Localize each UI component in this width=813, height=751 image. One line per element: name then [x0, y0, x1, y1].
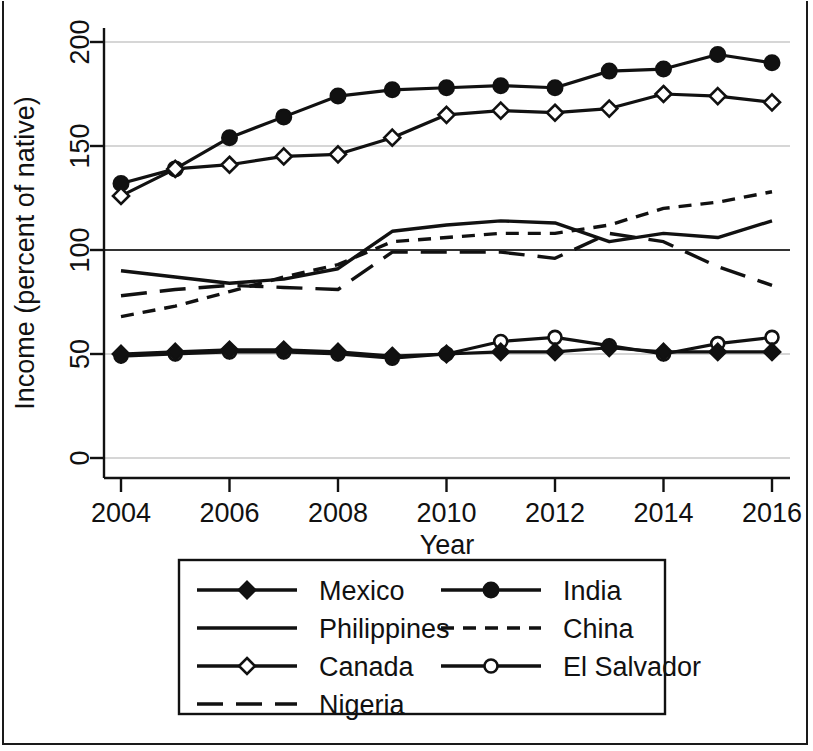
- legend-group: MexicoPhilippinesCanadaNigeriaIndiaChina…: [179, 560, 701, 720]
- data-point-marker: [385, 82, 400, 97]
- data-point-marker: [710, 88, 726, 104]
- y-axis-title: Income (percent of native): [10, 96, 40, 410]
- data-point-marker: [384, 130, 400, 146]
- axis-group: [90, 28, 790, 492]
- x-tick-label: 2006: [199, 498, 259, 528]
- data-point-marker: [548, 80, 563, 95]
- data-point-marker: [764, 94, 780, 110]
- line-chart: 0501001502002004200620082010201220142016…: [0, 0, 813, 751]
- x-tick-label: 2012: [525, 498, 585, 528]
- series-nigeria: [121, 233, 772, 295]
- data-point-marker: [439, 107, 455, 123]
- data-point-marker: [276, 109, 291, 124]
- data-point-marker: [764, 343, 781, 360]
- data-point-marker: [276, 148, 292, 164]
- data-point-marker: [222, 130, 237, 145]
- data-point-marker: [656, 86, 672, 102]
- data-point-marker: [547, 105, 563, 121]
- series-line: [121, 192, 772, 317]
- legend-label: El Salvador: [563, 652, 701, 682]
- gridlines-group: [104, 42, 790, 458]
- x-tick-label: 2014: [633, 498, 693, 528]
- legend-label: Canada: [319, 652, 415, 682]
- data-point-marker: [765, 55, 780, 70]
- data-point-marker: [549, 331, 562, 344]
- legend-label: China: [563, 614, 635, 644]
- data-point-marker: [766, 331, 779, 344]
- series-mexico: [113, 339, 781, 364]
- x-tick-label: 2008: [308, 498, 368, 528]
- data-point-marker: [602, 64, 617, 79]
- y-tick-label: 100: [65, 227, 95, 272]
- data-point-marker: [547, 343, 564, 360]
- data-point-marker: [601, 101, 617, 117]
- legend-marker-sample: [485, 660, 498, 673]
- series-group: [113, 47, 781, 365]
- figure-container: 0501001502002004200620082010201220142016…: [0, 0, 813, 751]
- data-point-marker: [113, 188, 129, 204]
- data-point-marker: [330, 146, 346, 162]
- x-axis-title: Year: [420, 530, 475, 560]
- legend-marker-sample: [484, 583, 499, 598]
- data-point-marker: [439, 80, 454, 95]
- data-point-marker: [710, 47, 725, 62]
- y-tick-label: 0: [65, 450, 95, 465]
- data-point-marker: [331, 89, 346, 104]
- data-point-marker: [222, 157, 238, 173]
- y-tick-label: 150: [65, 123, 95, 168]
- y-tick-label: 50: [65, 339, 95, 369]
- data-point-marker: [493, 103, 509, 119]
- x-tick-label: 2004: [91, 498, 151, 528]
- series-canada: [113, 86, 780, 204]
- data-point-marker: [493, 78, 508, 93]
- legend-label: Mexico: [319, 576, 405, 606]
- x-tick-label: 2016: [742, 498, 802, 528]
- data-point-marker: [438, 346, 455, 363]
- legend-label: Philippines: [319, 614, 450, 644]
- series-line: [121, 233, 772, 295]
- y-tick-label: 200: [65, 19, 95, 64]
- x-tick-label: 2010: [416, 498, 476, 528]
- legend-label: India: [563, 576, 623, 606]
- series-china: [121, 192, 772, 317]
- data-point-marker: [656, 62, 671, 77]
- legend-label: Nigeria: [319, 690, 406, 720]
